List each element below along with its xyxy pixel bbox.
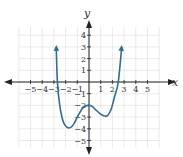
y-tick-label: −5 — [74, 137, 86, 146]
y-tick-label: 3 — [81, 43, 86, 52]
tick-labels: −5−4−3−2−1123454321−1−2−3−4−5 — [25, 31, 150, 145]
x-tick-label: −5 — [25, 85, 37, 94]
x-tick-label: −2 — [60, 85, 72, 94]
y-tick-label: 1 — [81, 66, 86, 75]
x-tick-label: 4 — [133, 85, 138, 94]
x-tick-label: 1 — [98, 85, 103, 94]
x-tick-label: 3 — [122, 85, 127, 94]
y-tick-label: −4 — [74, 125, 86, 134]
y-axis-label: y — [83, 7, 91, 20]
y-tick-label: −1 — [74, 90, 86, 99]
x-tick-label: 5 — [145, 85, 150, 94]
x-axis-label: x — [172, 76, 179, 89]
x-tick-label: 2 — [110, 85, 115, 94]
arrow-head-icon — [118, 45, 124, 51]
y-tick-label: 2 — [81, 55, 86, 64]
x-tick-label: −4 — [36, 85, 48, 94]
y-tick-label: 4 — [81, 31, 86, 40]
graph: −5−4−3−2−1123454321−1−2−3−4−5 x y — [0, 0, 183, 157]
arrow-head-icon — [54, 45, 60, 51]
